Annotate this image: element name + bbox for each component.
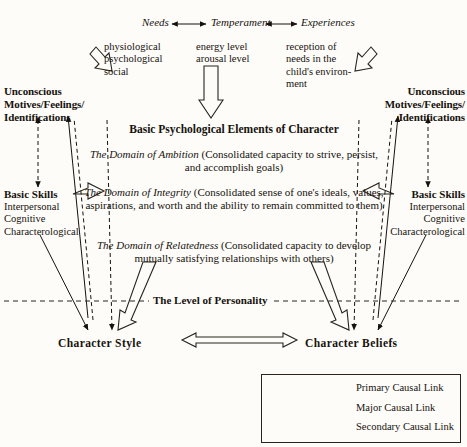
experiences-detail-item: needs in the: [286, 53, 351, 65]
legend-label-primary: Primary Causal Link: [356, 382, 444, 393]
experiences-detail-item: reception of: [286, 41, 351, 53]
experiences-detail-list: reception of needs in the child's enviro…: [286, 41, 351, 91]
label-level-of-personality: The Level of Personality: [149, 294, 272, 307]
temperament-detail-list: energy level arousal level: [196, 41, 249, 66]
primary-arrow-domains-to-beliefs: [311, 262, 349, 330]
temperament-detail-item: energy level: [196, 41, 249, 53]
basic-skills-right-item: Characterological: [357, 226, 465, 238]
legend-label-secondary: Secondary Causal Link: [356, 421, 454, 432]
basic-skills-left-heading: Basic Skills: [4, 188, 79, 201]
major-arrow-skills-right-to-beliefs: [378, 235, 426, 330]
domain-relatedness: The Domain of Relatedness (Consolidated …: [88, 239, 380, 265]
domain-ambition-name: The Domain of Ambition: [90, 148, 199, 160]
legend-row-primary: Primary Causal Link: [262, 383, 460, 403]
domain-ambition: The Domain of Ambition (Consolidated cap…: [88, 148, 380, 174]
domain-relatedness-name: The Domain of Relatedness: [97, 239, 218, 251]
domain-ambition-desc: (Consolidated capacity to strive, persis…: [185, 148, 378, 173]
unconscious-right-line: Identifications: [357, 111, 465, 124]
needs-detail-item: psychological: [104, 53, 162, 65]
unconscious-right-line: Unconscious: [357, 85, 465, 98]
legend-row-secondary: Secondary Causal Link: [262, 422, 460, 442]
basic-skills-left-item: Cognitive: [4, 213, 79, 225]
unconscious-left-line: Identifications: [4, 111, 84, 124]
primary-arrow-temperament-down: [199, 66, 223, 118]
primary-arrow-experiences-to-unconscious-right: [355, 47, 377, 71]
temperament-detail-item: arousal level: [196, 53, 249, 65]
domain-integrity-name: The Domain of Integrity: [84, 186, 191, 198]
basic-skills-right-item: Cognitive: [357, 213, 465, 225]
basic-skills-left-item: Characterological: [4, 226, 79, 238]
diagram-canvas: Needs Temperament Experiences physiologi…: [0, 0, 467, 447]
basic-skills-left-item: Interpersonal: [4, 201, 79, 213]
label-needs: Needs: [142, 16, 169, 29]
legend-box: Primary Causal Link Major Causal Link Se…: [261, 374, 461, 443]
legend-row-major: Major Causal Link: [262, 403, 460, 423]
unconscious-left-line: Unconscious: [4, 85, 84, 98]
needs-detail-item: social: [104, 66, 162, 78]
unconscious-left-line: Motives/Feelings/: [4, 98, 84, 111]
experiences-detail-item: ment: [286, 78, 351, 90]
domain-integrity: The Domain of Integrity (Consolidated se…: [84, 186, 384, 212]
major-arrow-skills-left-to-style: [40, 235, 88, 330]
label-experiences: Experiences: [301, 16, 355, 29]
node-character-style: Character Style: [58, 337, 141, 351]
needs-detail-list: physiological psychological social: [104, 41, 162, 78]
label-temperament: Temperament: [211, 16, 270, 29]
node-basic-skills-left: Basic Skills Interpersonal Cognitive Cha…: [4, 188, 79, 238]
primary-arrow-style-beliefs: [182, 333, 297, 347]
heading-basic-psychological-elements: Basic Psychological Elements of Characte…: [84, 123, 384, 137]
node-character-beliefs: Character Beliefs: [305, 337, 398, 351]
unconscious-right-line: Motives/Feelings/: [357, 98, 465, 111]
node-unconscious-left: Unconscious Motives/Feelings/ Identifica…: [4, 85, 84, 124]
needs-detail-item: physiological: [104, 41, 162, 53]
node-unconscious-right: Unconscious Motives/Feelings/ Identifica…: [357, 85, 465, 124]
legend-label-major: Major Causal Link: [356, 402, 435, 413]
experiences-detail-item: child's environ-: [286, 66, 351, 78]
